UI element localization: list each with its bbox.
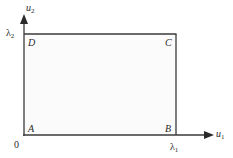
corner-label-b: B — [165, 124, 171, 134]
corner-label-c: C — [165, 38, 172, 48]
corner-label-d: D — [28, 38, 35, 48]
y-axis-arrow-icon — [20, 14, 28, 24]
y-tick-label-subscript: 2 — [11, 32, 15, 40]
x-tick-label-subscript: 1 — [175, 146, 179, 154]
rectangle-region-diagram: u2 λ2 D C A B 0 λ1 u1 — [0, 0, 233, 158]
y-axis-label-subscript: 2 — [31, 7, 35, 15]
diagram-canvas — [0, 0, 233, 158]
y-tick-label: λ2 — [6, 28, 14, 40]
x-axis-arrow-icon — [204, 131, 214, 139]
y-axis-label: u2 — [26, 3, 35, 15]
x-axis-label-subscript: 1 — [221, 133, 225, 141]
rectangle-fill — [24, 34, 176, 135]
x-tick-label: λ1 — [170, 142, 178, 154]
x-axis-label: u1 — [216, 129, 225, 141]
origin-label: 0 — [14, 140, 19, 150]
corner-label-a: A — [28, 124, 34, 134]
